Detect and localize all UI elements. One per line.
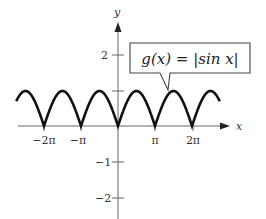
y-tick-label-2: 2	[101, 49, 108, 62]
x-tick-label-neg2pi: −2π	[32, 134, 55, 147]
x-tick-label-negpi: −π	[70, 134, 86, 147]
x-tick-label-2pi: 2π	[186, 134, 200, 147]
y-tick-label-neg1: −1	[95, 156, 111, 169]
x-axis-label: x	[236, 120, 243, 133]
function-callout: g(x) = |sin x|	[130, 43, 250, 90]
y-axis-label: y	[113, 6, 121, 19]
y-axis-arrow-icon	[115, 22, 122, 32]
plot-area: x y 2 −1 −2 −2π −π π 2π g(x) = |sin x|	[0, 0, 266, 219]
x-axis-arrow-icon	[220, 123, 230, 130]
x-tick-label-pi: π	[151, 134, 158, 147]
y-tick-label-neg2: −2	[95, 192, 111, 205]
callout-label: g(x) = |sin x|	[141, 50, 238, 68]
